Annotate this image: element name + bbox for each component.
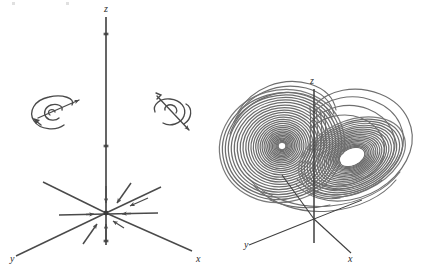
left-lobe-center-hole bbox=[279, 143, 285, 149]
attractor-right-lobe bbox=[286, 101, 418, 212]
left-z-axis-label: z bbox=[103, 3, 108, 14]
right-z-axis-label: z bbox=[309, 75, 314, 86]
left-y-axis-label: y bbox=[9, 253, 15, 264]
y-axis-line bbox=[16, 187, 161, 256]
right-y-axis-back bbox=[314, 200, 362, 219]
left-panel-svg: z y x bbox=[0, 0, 210, 280]
figure-canvas: z y x bbox=[0, 0, 421, 280]
panel-coordinate-axes: z y x bbox=[0, 0, 210, 280]
right-panel-svg: z y x bbox=[210, 0, 421, 280]
panel-lorenz-attractor: z y x bbox=[210, 0, 421, 280]
x-axis-line bbox=[43, 182, 192, 251]
spiral-sink-icon bbox=[32, 96, 79, 129]
origin-marker bbox=[104, 211, 109, 216]
right-x-axis-line bbox=[314, 219, 351, 253]
right-x-axis-label: x bbox=[347, 253, 353, 264]
scan-artifact-marks bbox=[12, 2, 69, 5]
right-y-axis-line bbox=[249, 219, 314, 245]
left-x-axis-label: x bbox=[195, 253, 201, 264]
right-y-axis-label: y bbox=[243, 239, 249, 250]
spiral-saddle-icon bbox=[154, 93, 190, 130]
